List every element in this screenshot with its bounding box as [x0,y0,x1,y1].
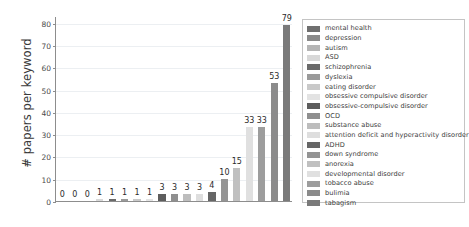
legend-color-swatch [307,132,320,138]
bar-value-label: 0 [72,191,77,199]
bar[interactable] [171,194,178,201]
bar[interactable] [121,199,128,201]
legend-item[interactable]: autism [307,43,461,52]
legend-item-label: eating disorder [325,84,376,91]
y-axis-tick-label: 20 [41,153,51,162]
legend-item[interactable]: OCD [307,111,461,120]
bar[interactable] [158,194,165,201]
legend-item[interactable]: schizophrenia [307,63,461,72]
y-axis-tick-label: 10 [41,175,51,184]
bar[interactable] [196,194,203,201]
legend-item[interactable]: attention deficit and hyperactivity diso… [307,131,461,140]
legend-color-swatch [307,171,320,177]
legend-item[interactable]: depression [307,34,461,43]
legend-item[interactable]: obsessive compulsive disorder [307,92,461,101]
legend-color-swatch [307,113,320,119]
bar-slot[interactable]: 79 [281,17,293,201]
bar-slot[interactable]: 3 [193,17,205,201]
legend-item[interactable]: dyslexia [307,72,461,81]
legend-item-label: ADHD [325,142,345,149]
y-axis-tick-label: 40 [41,108,51,117]
legend-item-label: depression [325,35,361,42]
bar[interactable] [96,199,103,201]
legend-color-swatch [307,84,320,90]
bar-slot[interactable]: 1 [93,17,105,201]
legend-item[interactable]: anorexia [307,160,461,169]
bar-slot[interactable]: 0 [68,17,80,201]
legend-item-label: down syndrome [325,151,378,158]
legend-item-label: substance abuse [325,122,381,129]
legend-item[interactable]: ASD [307,53,461,62]
bar-value-label: 33 [257,117,267,125]
legend-color-swatch [307,55,320,61]
bar[interactable] [133,199,140,201]
legend-color-swatch [307,190,320,196]
legend-item[interactable]: tabagism [307,198,461,207]
legend-item-label: anorexia [325,161,354,168]
bar-slot[interactable]: 1 [131,17,143,201]
bar-value-label: 0 [60,191,65,199]
legend-item[interactable]: bulimia [307,189,461,198]
legend-color-swatch [307,200,320,206]
legend-item[interactable]: down syndrome [307,150,461,159]
legend-color-swatch [307,123,320,129]
bar-slot[interactable]: 33 [256,17,268,201]
legend-item-label: tabagism [325,200,356,207]
bar-value-label: 1 [147,189,152,197]
legend-item[interactable]: mental health [307,24,461,33]
bar-slot[interactable]: 15 [231,17,243,201]
bar[interactable] [221,179,228,201]
y-axis-tick-label: 60 [41,64,51,73]
bar[interactable] [246,127,253,201]
bar-slot[interactable]: 53 [268,17,280,201]
bar-slot[interactable]: 3 [156,17,168,201]
legend-item[interactable]: tobacco abuse [307,179,461,188]
legend-color-swatch [307,35,320,41]
bar-slot[interactable]: 33 [243,17,255,201]
bar[interactable] [283,25,290,201]
legend-item[interactable]: substance abuse [307,121,461,130]
bar-slot[interactable]: 1 [106,17,118,201]
bar-slot[interactable]: 0 [56,17,68,201]
bar-slot[interactable]: 1 [143,17,155,201]
legend-color-swatch [307,26,320,32]
y-axis-tick-label: 30 [41,131,51,140]
legend-item-label: schizophrenia [325,64,371,71]
bar[interactable] [146,199,153,201]
bar-slot[interactable]: 3 [181,17,193,201]
legend-item-label: obsessive-compulsive disorder [325,103,428,110]
legend-item-label: mental health [325,25,372,32]
bar-slot[interactable]: 0 [81,17,93,201]
bar-value-label: 33 [244,117,254,125]
bar-value-label: 4 [209,182,214,190]
bar-value-label: 3 [159,184,164,192]
bar[interactable] [183,194,190,201]
legend-item-label: attention deficit and hyperactivity diso… [325,132,469,139]
y-axis-tick-label: 70 [41,41,51,50]
bar[interactable] [271,83,278,201]
bar-series: 0001111133334101533335379 [56,17,292,201]
legend-item-label: obsessive compulsive disorder [325,93,428,100]
bar-value-label: 15 [232,158,242,166]
bar-slot[interactable]: 4 [206,17,218,201]
legend-item[interactable]: obsessive-compulsive disorder [307,102,461,111]
bar[interactable] [208,192,215,201]
bar-value-label: 1 [122,189,127,197]
legend-color-swatch [307,181,320,187]
y-axis-tick-label: 0 [46,198,51,207]
bar-slot[interactable]: 3 [168,17,180,201]
bar[interactable] [258,127,265,201]
bar-slot[interactable]: 1 [118,17,130,201]
bar[interactable] [109,199,116,201]
legend-color-swatch [307,94,320,100]
bar-value-label: 0 [85,191,90,199]
bar-value-label: 1 [97,189,102,197]
legend-item-label: ASD [325,54,339,61]
bar-slot[interactable]: 10 [218,17,230,201]
legend-item[interactable]: developmental disorder [307,169,461,178]
bar[interactable] [233,168,240,201]
legend-item[interactable]: ADHD [307,140,461,149]
legend-item[interactable]: eating disorder [307,82,461,91]
legend-item-label: bulimia [325,190,350,197]
